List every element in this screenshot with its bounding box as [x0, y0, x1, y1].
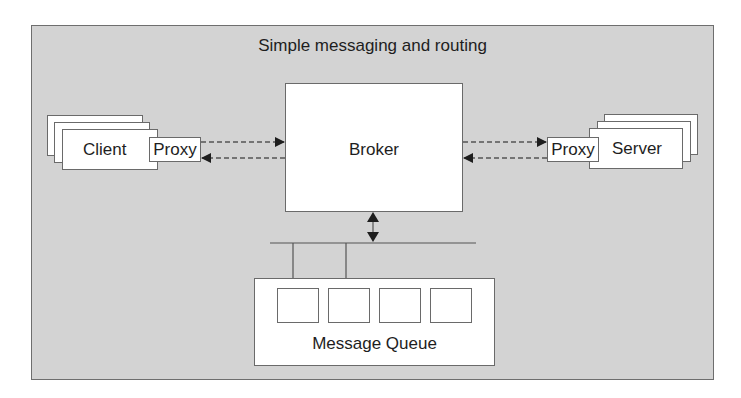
client-label: Client	[83, 140, 126, 160]
message-queue-node: Message Queue	[254, 278, 495, 366]
server-node: Server	[589, 128, 683, 169]
broker-label: Broker	[349, 140, 399, 160]
queue-slot-4	[430, 288, 472, 323]
server-proxy-node: Proxy	[547, 137, 599, 162]
queue-slot-3	[379, 288, 421, 323]
diagram-title: Simple messaging and routing	[31, 36, 714, 56]
queue-slot-2	[328, 288, 370, 323]
queue-slot-1	[277, 288, 319, 323]
client-node: Client	[62, 129, 158, 170]
server-label: Server	[612, 139, 662, 159]
client-proxy-node: Proxy	[149, 137, 201, 162]
broker-node: Broker	[285, 83, 463, 212]
client-proxy-label: Proxy	[153, 140, 196, 160]
server-proxy-label: Proxy	[551, 140, 594, 160]
message-queue-label: Message Queue	[255, 333, 494, 355]
